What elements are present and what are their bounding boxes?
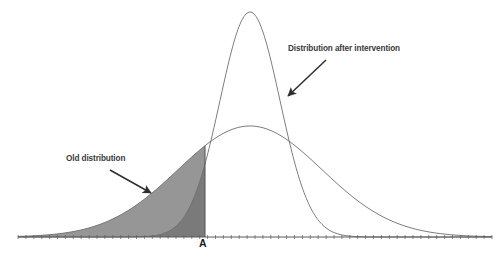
annotation-arrows	[110, 60, 326, 193]
old-distribution-label: Old distribution	[66, 155, 125, 163]
after-intervention-arrow-icon	[288, 60, 326, 96]
distribution-chart: Distribution after intervention Old dist…	[0, 0, 503, 261]
chart-canvas	[0, 0, 503, 261]
intervention-distribution-curve	[18, 12, 492, 237]
axis-group	[18, 235, 492, 239]
threshold-tick-label: A	[199, 238, 207, 249]
old-distribution-curve	[18, 126, 492, 237]
x-axis-ticks	[18, 235, 492, 239]
old-distribution-arrow-icon	[110, 170, 151, 193]
after-intervention-label: Distribution after intervention	[288, 45, 400, 53]
curve-group	[18, 12, 492, 237]
